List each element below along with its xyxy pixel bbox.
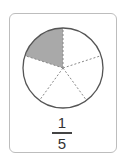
fraction-label: 1 5	[46, 115, 78, 151]
divider-line	[63, 56, 101, 68]
numerator: 1	[46, 115, 78, 130]
fraction-bar	[52, 132, 72, 134]
denominator: 5	[46, 136, 78, 151]
shaded-slice	[25, 28, 63, 68]
divider-line	[63, 68, 87, 100]
divider-line	[39, 68, 63, 100]
